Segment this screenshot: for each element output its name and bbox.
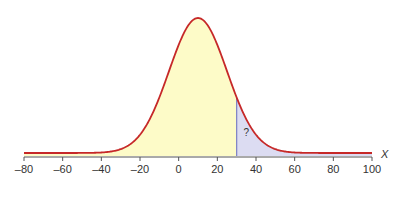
x-axis-label: X — [380, 148, 389, 160]
x-tick-label: –60 — [53, 163, 71, 175]
normal-distribution-chart: –80–60–40–20020406080100 ? X — [0, 0, 398, 197]
x-tick-label: 20 — [211, 163, 223, 175]
x-tick-label: 80 — [327, 163, 339, 175]
x-tick-label: 0 — [176, 163, 182, 175]
chart-canvas: –80–60–40–20020406080100 ? X — [0, 0, 398, 197]
x-tick-label: 40 — [250, 163, 262, 175]
x-tick-label: –40 — [92, 163, 110, 175]
left-shaded-area — [24, 18, 237, 156]
region-annotation: ? — [244, 127, 250, 138]
x-tick-label: 100 — [363, 163, 381, 175]
x-tick-label: 60 — [289, 163, 301, 175]
x-tick-label: –80 — [15, 163, 33, 175]
right-shaded-area-question — [237, 98, 372, 157]
x-tick-label: –20 — [131, 163, 149, 175]
x-axis-ticks: –80–60–40–20020406080100 — [15, 157, 381, 175]
